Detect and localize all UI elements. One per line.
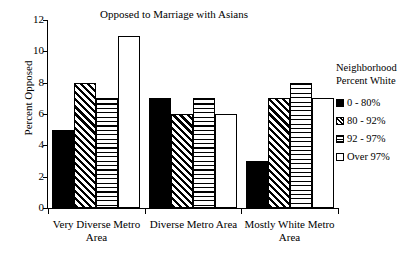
bar	[149, 98, 171, 208]
legend-items: 0 - 80%80 - 92%92 - 97%Over 97%	[336, 95, 415, 164]
legend-item[interactable]: Over 97%	[336, 149, 415, 164]
x-axis-tick-mark	[145, 209, 146, 214]
x-axis-line	[47, 208, 339, 209]
legend-swatch-horizontal-icon	[336, 135, 344, 143]
y-axis-tick-mark	[43, 20, 48, 21]
legend-item[interactable]: 0 - 80%	[336, 95, 415, 110]
bar	[193, 98, 215, 208]
legend-item-label: 80 - 92%	[347, 115, 386, 126]
bar	[171, 114, 193, 208]
bar	[74, 83, 96, 208]
legend-item-label: 92 - 97%	[347, 133, 386, 144]
y-axis-tick-mark	[43, 145, 48, 146]
x-axis-category-label-line: Diverse Metro Area	[145, 218, 242, 231]
bar	[290, 83, 312, 208]
bar	[118, 36, 140, 208]
y-axis-tick-label: 10	[18, 45, 44, 56]
plot-area	[48, 20, 338, 208]
y-axis-tick-label: 12	[18, 14, 44, 25]
legend-item-label: Over 97%	[347, 151, 390, 162]
y-axis-tick-mark	[43, 114, 48, 115]
y-axis-tick-label: 6	[18, 108, 44, 119]
y-axis-tick-label: 2	[18, 171, 44, 182]
bar	[268, 98, 290, 208]
chart-legend: NeighborhoodPercent White 0 - 80%80 - 92…	[336, 62, 415, 167]
legend-swatch-none-icon	[336, 153, 344, 161]
x-axis-category-label-line: Area	[48, 231, 145, 244]
legend-title: NeighborhoodPercent White	[336, 62, 415, 87]
x-axis-category-label-line: Very Diverse Metro	[48, 218, 145, 231]
legend-item[interactable]: 92 - 97%	[336, 131, 415, 146]
y-axis-tick-label: 0	[18, 202, 44, 213]
x-axis-category-label-line: Mostly White Metro	[241, 218, 338, 231]
legend-item[interactable]: 80 - 92%	[336, 113, 415, 128]
legend-item-label: 0 - 80%	[347, 97, 380, 108]
x-axis-category-label: Mostly White MetroArea	[241, 218, 338, 244]
x-axis-category-label-line: Area	[241, 231, 338, 244]
legend-swatch-solid-icon	[336, 99, 344, 107]
x-axis-tick-mark	[241, 209, 242, 214]
y-axis-tick-mark	[43, 51, 48, 52]
y-axis-tick-label: 8	[18, 77, 44, 88]
bar	[215, 114, 237, 208]
x-axis-tick-mark	[48, 209, 49, 214]
legend-title-line: Percent White	[336, 75, 415, 88]
bar	[246, 161, 268, 208]
legend-swatch-diagonal-icon	[336, 117, 344, 125]
bar	[52, 130, 74, 208]
y-axis-tick-label: 4	[18, 139, 44, 150]
bar	[312, 98, 334, 208]
y-axis-tick-labels: 024681012	[18, 0, 44, 260]
y-axis-tick-mark	[43, 177, 48, 178]
x-axis-tick-mark	[338, 209, 339, 214]
y-axis-tick-mark	[43, 83, 48, 84]
chart-figure: Opposed to Marriage with Asians Percent …	[0, 0, 415, 260]
bar	[96, 98, 118, 208]
legend-title-line: Neighborhood	[336, 62, 415, 75]
x-axis-category-label: Very Diverse MetroArea	[48, 218, 145, 244]
x-axis-category-label: Diverse Metro Area	[145, 218, 242, 231]
